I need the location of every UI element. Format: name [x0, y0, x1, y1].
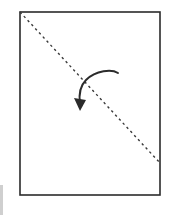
folding-diagram-svg: [0, 0, 171, 219]
paper-sheet-outline: [20, 12, 160, 195]
figure-canvas: [0, 0, 171, 219]
cropped-edge-artifact: [0, 185, 3, 215]
